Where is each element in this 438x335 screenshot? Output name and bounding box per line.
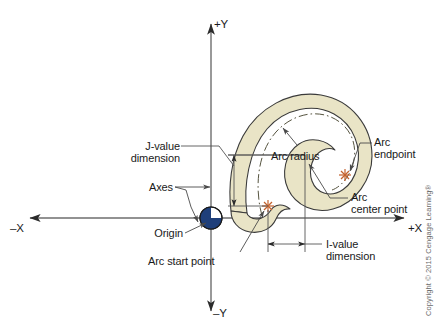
x-negative-label: –X	[10, 222, 24, 235]
arc-endpoint-label-line1: Arc	[374, 136, 390, 149]
j-value-dimension-label-line2: dimension	[104, 152, 180, 165]
arc-center-point-label-line2: center point	[351, 203, 407, 216]
origin-symbol	[200, 207, 222, 229]
arc-center-point-label-line1: Arc	[351, 191, 367, 204]
axes-label: Axes	[118, 181, 173, 194]
figure-canvas: +Y –Y –X +X J-value dimension Axes Origi…	[0, 0, 438, 335]
diagram-svg	[0, 0, 438, 335]
copyright-notice: Copyright © 2015 Cengage Learning®	[424, 185, 433, 316]
j-value-leader	[181, 146, 234, 166]
origin-label: Origin	[130, 227, 183, 240]
x-positive-label: +X	[408, 222, 422, 235]
axes-leader-lower	[175, 187, 198, 222]
arc-endpoint-label-line2: endpoint	[374, 148, 415, 161]
i-value-dimension-label-line2: dimension	[326, 250, 375, 263]
arc-radius-label: Arc radius	[271, 150, 320, 163]
axis-lines	[30, 24, 404, 311]
y-positive-label: +Y	[214, 18, 228, 31]
y-negative-label: –Y	[213, 307, 227, 320]
origin-leader	[185, 223, 206, 233]
arc-start-point-label: Arc start point	[148, 255, 214, 268]
arc-radius-leader	[283, 128, 297, 145]
i-value-dimension-label-line1: I-value	[326, 238, 358, 251]
j-value-dimension-label-line1: J-value	[104, 140, 180, 153]
arc-end-point-marker	[339, 169, 351, 181]
